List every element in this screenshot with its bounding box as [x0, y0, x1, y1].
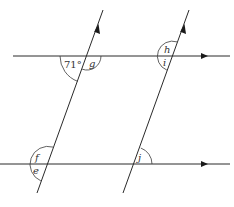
- top-line-arrow-icon: [201, 53, 208, 59]
- bottom-line-arrow-icon: [201, 161, 208, 167]
- right-transversal: [123, 10, 189, 193]
- angle-g-label: g: [89, 58, 95, 69]
- angle-e-label: e: [33, 165, 39, 176]
- angle-f-label: f: [34, 152, 41, 163]
- angle-j-arc: [141, 148, 152, 164]
- left-transversal: [37, 10, 103, 193]
- parallel-lines-diagram: 71° g h i f e j: [0, 0, 234, 207]
- angle-h-label: h: [164, 44, 170, 55]
- angle-71-label: 71°: [64, 59, 82, 70]
- angle-i-label: i: [163, 57, 166, 68]
